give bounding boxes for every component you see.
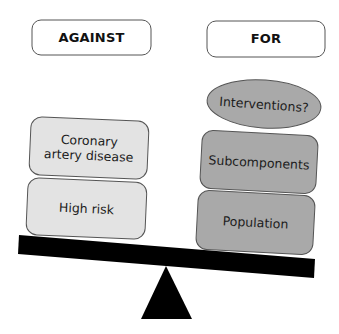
interventions-label: Interventions? — [205, 76, 322, 132]
against-header: AGAINST — [32, 20, 151, 55]
high-risk-label: High risk — [26, 177, 147, 239]
coronary-artery-disease-label: Coronary artery disease — [35, 118, 143, 179]
balance-diagram: AGAINST FOR Coronary artery disease High… — [0, 0, 339, 334]
for-header: FOR — [207, 21, 325, 57]
subcomponents-label: Subcomponents — [200, 130, 319, 194]
population-label: Population — [196, 190, 316, 255]
fulcrum-triangle — [141, 266, 192, 319]
